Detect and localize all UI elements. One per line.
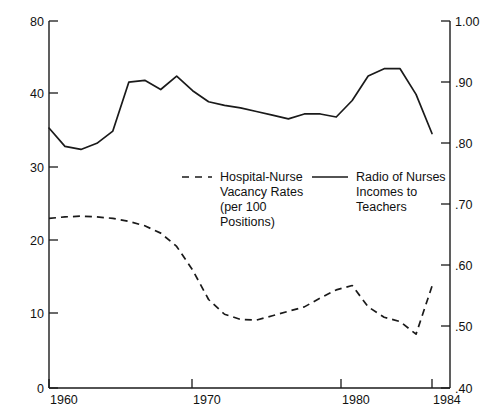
- axis-left: 80 40 30 20 10 0: [30, 15, 58, 396]
- left-tick-label-40: 40: [30, 87, 44, 101]
- left-tick-label-20: 20: [30, 234, 44, 248]
- bottom-tick-label-1960: 1960: [50, 393, 78, 407]
- left-tick-label-0: 0: [37, 382, 44, 396]
- left-tick-label-10: 10: [30, 307, 44, 321]
- left-tick-label-30: 30: [30, 161, 44, 175]
- right-tick-label-0-60: .60: [455, 259, 472, 273]
- bottom-tick-label-1980: 1980: [342, 393, 370, 407]
- bottom-tick-label-1984: 1984: [433, 393, 461, 407]
- legend-label-ratio-line-3: Teachers: [356, 200, 407, 214]
- bottom-tick-label-1970: 1970: [193, 393, 221, 407]
- axis-bottom: 1960 1970 1980 1984: [49, 379, 461, 407]
- legend-label-vacancy-line-4: Positions): [220, 215, 275, 229]
- series-line-ratio-nurses-to-teachers: [49, 69, 432, 150]
- legend-entry-ratio: Radio of Nurses Incomes to Teachers: [312, 170, 446, 214]
- legend-label-vacancy-line-1: Hospital-Nurse: [220, 170, 303, 184]
- right-tick-label-1-00: 1.00: [455, 15, 479, 29]
- legend-label-ratio-line-2: Incomes to: [356, 185, 417, 199]
- axis-right: 1.00 .90 .80 .70 .60 .50 .40: [441, 15, 479, 396]
- right-tick-label-0-80: .80: [455, 137, 472, 151]
- line-chart: 80 40 30 20 10 0 1.00 .90 .80 .70 .60 .5…: [0, 0, 481, 418]
- chart-container: 80 40 30 20 10 0 1.00 .90 .80 .70 .60 .5…: [0, 0, 481, 418]
- series-line-hospital-nurse-vacancy-rates: [49, 216, 432, 334]
- legend-label-vacancy-line-3: (per 100: [220, 200, 267, 214]
- legend-label-ratio-line-1: Radio of Nurses: [356, 170, 446, 184]
- legend-label-vacancy-line-2: Vacancy Rates: [220, 185, 303, 199]
- legend-entry-vacancy: Hospital-Nurse Vacancy Rates (per 100 Po…: [182, 170, 303, 229]
- right-tick-label-0-70: .70: [455, 198, 472, 212]
- right-tick-label-0-50: .50: [455, 320, 472, 334]
- legend: Hospital-Nurse Vacancy Rates (per 100 Po…: [182, 170, 446, 229]
- right-tick-label-0-90: .90: [455, 76, 472, 90]
- left-tick-label-80: 80: [30, 15, 44, 29]
